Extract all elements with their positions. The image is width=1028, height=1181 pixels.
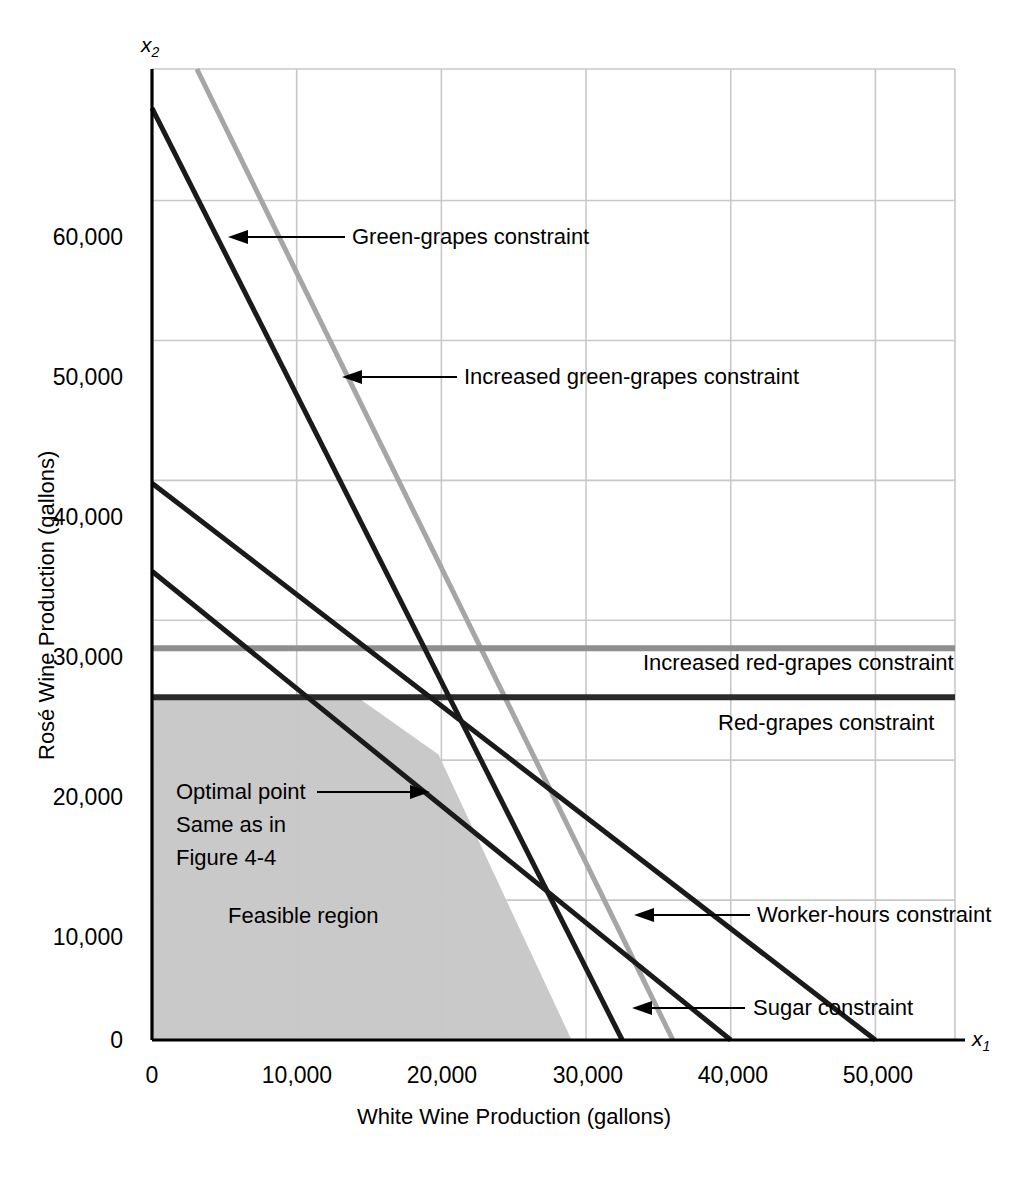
y-tick-60000: 60,000 [0, 224, 123, 251]
annotation-green-grapes: Green-grapes constraint [352, 224, 589, 250]
y-axis-symbol-sub: 2 [152, 44, 160, 60]
x-axis-symbol-sub: 1 [983, 1038, 991, 1054]
y-tick-30000: 30,000 [0, 644, 123, 671]
x-tick-30000: 30,000 [518, 1062, 658, 1089]
y-axis-symbol-text: x [141, 33, 152, 56]
optimal-point-line-2: Same as in [176, 812, 286, 838]
annotation-sugar: Sugar constraint [753, 995, 913, 1021]
y-tick-50000: 50,000 [0, 364, 123, 391]
annotation-increased-green-grapes: Increased green-grapes constraint [464, 364, 799, 390]
optimal-point-line-1: Optimal point [176, 779, 306, 805]
y-tick-0: 0 [0, 1027, 123, 1054]
x-tick-50000: 50,000 [808, 1062, 948, 1089]
x-tick-0: 0 [112, 1062, 192, 1089]
annotation-worker-hours: Worker-hours constraint [757, 902, 991, 928]
y-tick-40000: 40,000 [0, 504, 123, 531]
x-axis-symbol-text: x [972, 1027, 983, 1050]
x-axis-symbol: x1 [972, 1027, 990, 1054]
x-axis-title: White Wine Production (gallons) [0, 1104, 1028, 1130]
annotation-increased-red-grapes: Increased red-grapes constraint [643, 650, 954, 676]
y-tick-10000: 10,000 [0, 924, 123, 951]
optimal-point-line-3: Figure 4-4 [176, 845, 276, 871]
x-tick-20000: 20,000 [372, 1062, 512, 1089]
y-tick-20000: 20,000 [0, 784, 123, 811]
annotation-red-grapes: Red-grapes constraint [718, 710, 934, 736]
y-axis-symbol: x2 [141, 33, 159, 60]
y-axis-title: Rosé Wine Production (gallons) [34, 451, 60, 760]
x-tick-10000: 10,000 [227, 1062, 367, 1089]
x-tick-40000: 40,000 [663, 1062, 803, 1089]
annotation-feasible-region: Feasible region [228, 903, 378, 929]
